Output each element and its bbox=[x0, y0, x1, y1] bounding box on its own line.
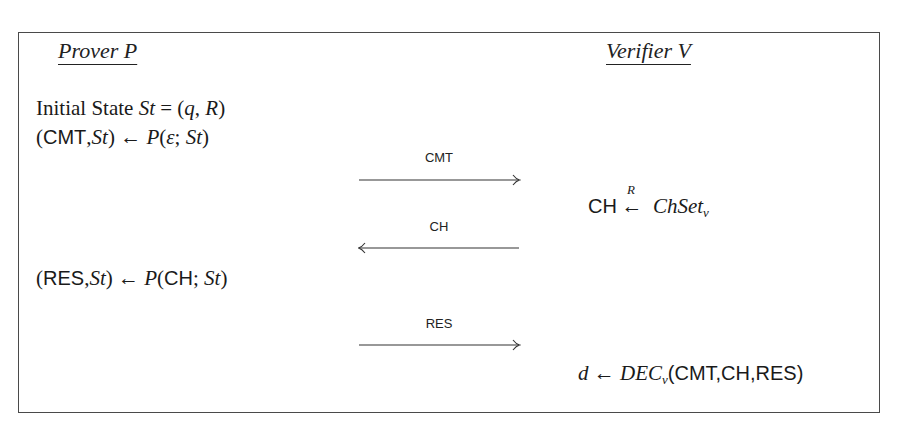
ch-token: CH bbox=[164, 267, 193, 289]
message-label-ch: CH bbox=[359, 219, 519, 234]
q-var: q bbox=[184, 96, 195, 120]
verifier-heading: Verifier V bbox=[606, 38, 691, 64]
decision-var: d bbox=[578, 361, 589, 385]
prover-fn: P bbox=[146, 125, 159, 149]
right-arrow-icon bbox=[359, 174, 521, 186]
open-paren: ( bbox=[157, 266, 164, 290]
prover-heading: Prover P bbox=[58, 38, 137, 64]
verifier-decision-step: d ← DECv(CMT,CH,RES) bbox=[578, 361, 803, 388]
decision-args: (CMT,CH,RES) bbox=[668, 362, 804, 384]
challenge-set: ChSet bbox=[653, 194, 703, 218]
random-sample-arrow: R← bbox=[621, 194, 643, 219]
open-paren: ( bbox=[36, 125, 43, 149]
R-var: R bbox=[205, 96, 218, 120]
ch-token: CH bbox=[588, 195, 617, 217]
initial-state-label: Initial State bbox=[36, 96, 139, 120]
prover-response-step: (RES,St) ← P(CH; St) bbox=[36, 266, 227, 291]
decision-fn: DEC bbox=[620, 361, 662, 385]
message-label-cmt: CMT bbox=[359, 150, 519, 165]
res-token: RES bbox=[43, 267, 84, 289]
comma: , bbox=[195, 96, 206, 120]
close-paren: ) bbox=[202, 125, 209, 149]
state-var: St bbox=[89, 266, 105, 290]
state-var: St bbox=[139, 96, 155, 120]
equals-open: = ( bbox=[155, 96, 184, 120]
verifier-challenge-step: CHR←ChSetv bbox=[588, 194, 709, 221]
right-arrow-icon bbox=[359, 339, 521, 351]
assign-arrow: ← bbox=[589, 361, 621, 385]
message-label-res: RES bbox=[359, 316, 519, 331]
challenge-set-subscript: v bbox=[703, 205, 709, 220]
cmt-token: CMT bbox=[43, 126, 86, 148]
epsilon: ε bbox=[166, 125, 174, 149]
open-paren: ( bbox=[36, 266, 43, 290]
close-paren: ) bbox=[220, 266, 227, 290]
close-paren: ) bbox=[218, 96, 225, 120]
prover-commit-step: (CMT,St) ← P(ε; St) bbox=[36, 125, 209, 150]
state-var: St bbox=[92, 125, 108, 149]
semicolon: ; bbox=[193, 266, 204, 290]
assign-arrow: ) ← bbox=[106, 266, 145, 290]
prover-initial-state: Initial State St = (q, R) bbox=[36, 96, 225, 121]
assign-arrow: ) ← bbox=[108, 125, 147, 149]
random-marker: R bbox=[627, 182, 635, 198]
left-arrow-icon bbox=[358, 242, 520, 254]
semicolon: ; bbox=[175, 125, 186, 149]
state-var: St bbox=[186, 125, 202, 149]
prover-fn: P bbox=[144, 266, 157, 290]
state-var: St bbox=[204, 266, 220, 290]
